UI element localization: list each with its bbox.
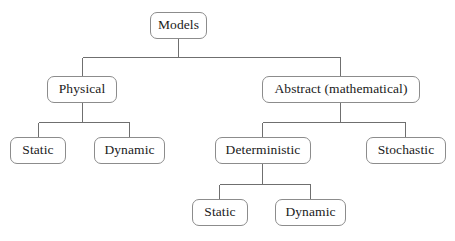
node-deterministic-dynamic[interactable]: Dynamic — [275, 199, 346, 226]
node-physical-dynamic-label: Dynamic — [104, 143, 154, 158]
node-deterministic-static[interactable]: Static — [192, 199, 248, 226]
node-deterministic-label: Deterministic — [226, 143, 301, 158]
node-physical-label: Physical — [59, 82, 106, 97]
node-models-label: Models — [158, 18, 199, 33]
node-abstract-mathematical-label: Abstract (mathematical) — [274, 82, 407, 97]
node-deterministic-dynamic-label: Dynamic — [285, 205, 335, 220]
models-classification-diagram: Models Physical Abstract (mathematical) … — [0, 0, 455, 241]
node-stochastic[interactable]: Stochastic — [366, 137, 446, 164]
node-physical-static[interactable]: Static — [10, 137, 66, 164]
node-physical-dynamic[interactable]: Dynamic — [94, 137, 165, 164]
node-physical-static-label: Static — [22, 143, 53, 158]
node-deterministic[interactable]: Deterministic — [215, 137, 311, 164]
node-deterministic-static-label: Static — [204, 205, 235, 220]
node-abstract-mathematical[interactable]: Abstract (mathematical) — [262, 76, 420, 103]
node-physical[interactable]: Physical — [47, 76, 117, 103]
node-models[interactable]: Models — [150, 12, 207, 39]
node-stochastic-label: Stochastic — [378, 143, 435, 158]
